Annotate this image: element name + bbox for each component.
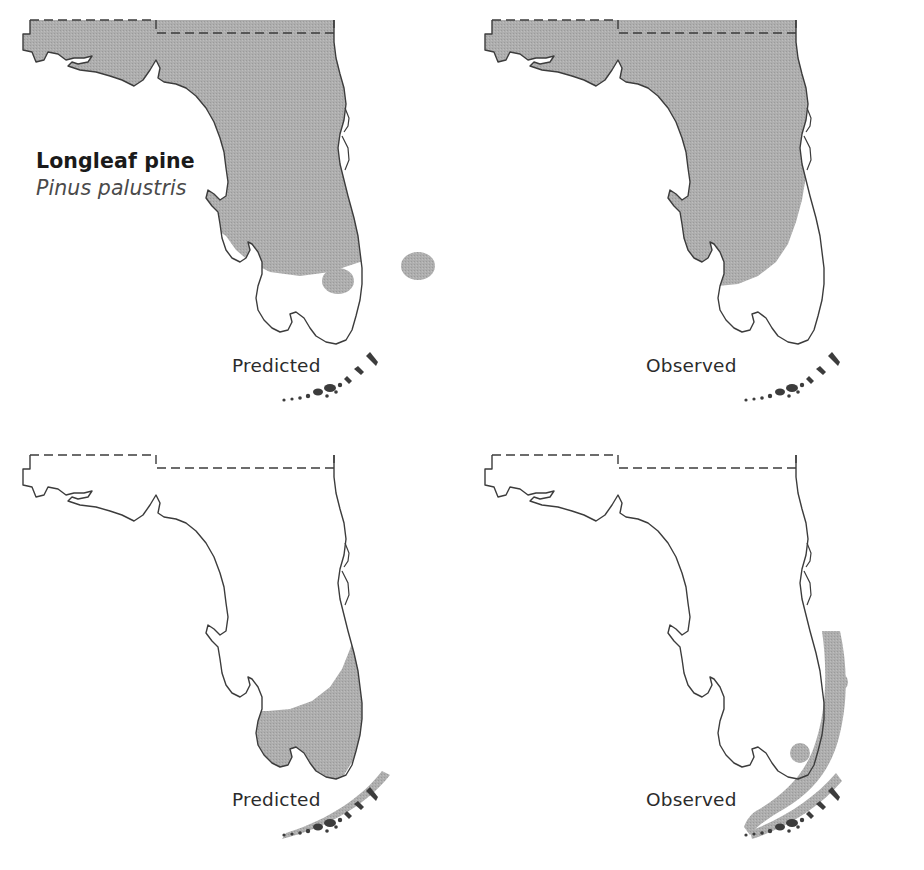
- species-scientific-name: Pinus palustris: [36, 175, 296, 201]
- panel-label-predicted-longleaf: Predicted: [232, 355, 321, 376]
- isolated-range-patch: [322, 268, 354, 294]
- species-caption-longleaf-pine: Longleaf pine Pinus palustris: [36, 148, 296, 201]
- species-common-name: Longleaf pine: [36, 148, 296, 174]
- panel-label-predicted-poison-tree: Predicted: [232, 789, 321, 810]
- species-range-map-figure: Longleaf pine Pinus palustris: [0, 0, 924, 870]
- map-panel-poison-tree-predicted: Florida poison tree Metopium toxiferum: [0, 435, 462, 870]
- panel-label-observed-poison-tree: Observed: [646, 789, 737, 810]
- isolated-range-patch: [401, 252, 435, 280]
- map-panel-longleaf-pine-predicted: Longleaf pine Pinus palustris: [0, 0, 462, 435]
- florida-map-longleaf-predicted: [0, 0, 462, 435]
- panel-label-observed-longleaf: Observed: [646, 355, 737, 376]
- florida-map-poison-tree-predicted: [0, 435, 462, 870]
- isolated-range-patch: [828, 672, 848, 692]
- isolated-range-patch: [790, 743, 810, 763]
